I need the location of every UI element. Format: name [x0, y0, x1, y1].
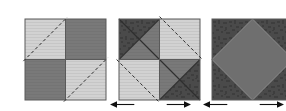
panel-inscribed-diamond-square	[203, 10, 286, 109]
geometric-dissection-figure	[0, 0, 286, 111]
quadrant-top-right	[66, 19, 107, 60]
quadrant-bottom-left	[25, 60, 66, 101]
quadrant-top-right	[160, 19, 201, 60]
width-dimension-panel-2	[110, 99, 191, 110]
panel-pinwheel-square	[110, 10, 209, 109]
panel-checkerboard-square	[16, 10, 115, 109]
quadrant-bottom-left	[119, 60, 160, 101]
width-dimension-panel-3	[203, 99, 284, 110]
